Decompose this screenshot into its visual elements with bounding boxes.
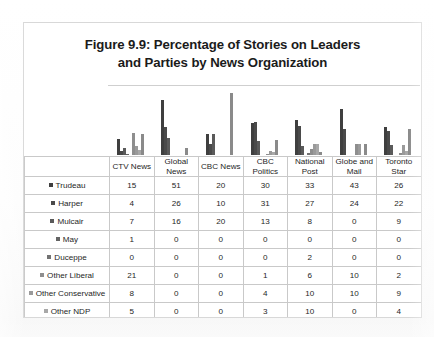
data-cell: 26	[154, 195, 199, 213]
data-cell: 4	[243, 285, 288, 303]
bar	[212, 134, 215, 155]
data-cell: 0	[377, 249, 422, 267]
data-cell: 8	[110, 285, 155, 303]
table-row: Duceppe0000200	[25, 249, 422, 267]
table-row: Other Liberal210016102	[25, 267, 422, 285]
bar-group	[197, 93, 242, 155]
table-body: Trudeau15512030334326Harper4261031272422…	[25, 177, 422, 318]
data-cell: 2	[377, 267, 422, 285]
table-corner-cell	[25, 157, 110, 177]
legend-cell: May	[25, 231, 110, 249]
figure-title-line-2: and Parties by News Organization	[40, 54, 405, 72]
bar-group	[375, 93, 420, 155]
data-cell: 0	[199, 249, 244, 267]
bar	[358, 144, 361, 155]
data-cell: 13	[243, 213, 288, 231]
legend-swatch-icon	[40, 273, 44, 277]
data-cell: 6	[288, 267, 333, 285]
table-row: Other NDP50031004	[25, 303, 422, 318]
bar	[343, 129, 346, 155]
column-header-3: CBC News	[199, 157, 244, 177]
data-cell: 4	[110, 195, 155, 213]
column-header-line: Mail	[333, 167, 377, 177]
data-cell: 0	[154, 285, 199, 303]
bar	[126, 154, 129, 155]
bar-group	[242, 93, 287, 155]
bar	[319, 152, 322, 155]
data-cell: 0	[243, 231, 288, 249]
data-cell: 1	[243, 267, 288, 285]
bar	[230, 93, 233, 155]
legend-label: Mulcair	[57, 217, 83, 226]
data-cell: 51	[154, 177, 199, 195]
data-cell: 15	[110, 177, 155, 195]
column-header-line: Star	[377, 167, 421, 177]
column-header-line: CTV News	[110, 162, 154, 172]
data-cell: 10	[288, 285, 333, 303]
column-header-7: TorontoStar	[377, 157, 422, 177]
bar	[167, 138, 170, 155]
data-cell: 0	[154, 267, 199, 285]
data-cell: 24	[332, 195, 377, 213]
data-cell: 16	[154, 213, 199, 231]
legend-swatch-icon	[47, 255, 51, 259]
data-cell: 0	[288, 231, 333, 249]
column-header-line: CBC	[244, 157, 288, 167]
column-header-1: CTV News	[110, 157, 155, 177]
data-cell: 0	[154, 303, 199, 318]
legend-cell: Other Conservative	[25, 285, 110, 303]
data-cell: 8	[288, 213, 333, 231]
table-row: May1000000	[25, 231, 422, 249]
legend-cell: Other NDP	[25, 303, 110, 318]
table-row: Mulcair7162013809	[25, 213, 422, 231]
legend-label: Other Conservative	[36, 289, 106, 298]
bar	[364, 144, 367, 155]
data-cell: 20	[199, 177, 244, 195]
table-row: Other Conservative800410109	[25, 285, 422, 303]
table-row: Trudeau15512030334326	[25, 177, 422, 195]
data-cell: 2	[288, 249, 333, 267]
bar-group	[286, 93, 331, 155]
bar-chart	[24, 93, 421, 155]
legend-label: Harper	[58, 199, 83, 208]
column-header-line: National	[288, 157, 332, 167]
legend-cell: Other Liberal	[25, 267, 110, 285]
data-cell: 0	[199, 303, 244, 318]
data-cell: 0	[332, 303, 377, 318]
data-cell: 9	[377, 285, 422, 303]
table-row: Harper4261031272422	[25, 195, 422, 213]
column-header-line: CBC News	[199, 162, 243, 172]
data-cell: 0	[332, 213, 377, 231]
data-cell: 0	[243, 249, 288, 267]
data-cell: 0	[199, 231, 244, 249]
legend-label: Other Liberal	[47, 271, 94, 280]
data-cell: 1	[110, 231, 155, 249]
bar-group	[108, 93, 153, 155]
data-cell: 26	[377, 177, 422, 195]
column-header-6: Globe andMail	[332, 157, 377, 177]
legend-swatch-icon	[50, 219, 54, 223]
bar	[275, 140, 278, 155]
bar	[185, 148, 188, 155]
data-cell: 10	[332, 285, 377, 303]
data-cell: 0	[199, 267, 244, 285]
data-cell: 0	[110, 249, 155, 267]
legend-cell: Duceppe	[25, 249, 110, 267]
bar-group	[153, 93, 198, 155]
data-cell: 7	[110, 213, 155, 231]
column-header-2: GlobalNews	[154, 157, 199, 177]
column-header-line: Politics	[244, 167, 288, 177]
bar-group	[331, 93, 376, 155]
legend-swatch-icon	[44, 309, 48, 313]
bar	[301, 146, 304, 155]
legend-cell: Harper	[25, 195, 110, 213]
figure-frame: Figure 9.9: Percentage of Stories on Lea…	[23, 22, 422, 318]
data-cell: 3	[243, 303, 288, 318]
data-cell: 27	[288, 195, 333, 213]
figure-title-line-1: Figure 9.9: Percentage of Stories on Lea…	[40, 36, 405, 54]
data-cell: 20	[199, 213, 244, 231]
table-header-row: CTV NewsGlobalNewsCBC NewsCBCPoliticsNat…	[25, 157, 422, 177]
data-cell: 33	[288, 177, 333, 195]
data-cell: 0	[377, 231, 422, 249]
data-cell: 0	[199, 285, 244, 303]
